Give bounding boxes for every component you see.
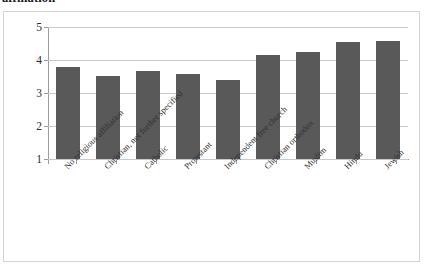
- y-axis-tick-mark: [44, 93, 48, 94]
- bar: [296, 52, 320, 159]
- y-axis-tick-label: 4: [36, 54, 42, 66]
- y-axis-tick-label: 1: [36, 153, 42, 165]
- y-axis-tick-mark: [44, 27, 48, 28]
- document-heading-fragment: affiliation: [2, 0, 302, 9]
- chart-plot-wrapper: 12345 No religious affiliationChristian,…: [4, 12, 421, 263]
- x-axis-labels: No religious affiliationChristian, not f…: [48, 164, 418, 260]
- bar: [56, 67, 80, 159]
- y-axis-tick-mark: [44, 126, 48, 127]
- gridline: [48, 27, 408, 28]
- chart-frame: 12345 No religious affiliationChristian,…: [3, 11, 420, 262]
- y-axis-tick-label: 3: [36, 87, 42, 99]
- screenshot-root: affiliation 12345 No religious affiliati…: [0, 0, 426, 276]
- bar: [376, 41, 400, 159]
- bar: [336, 42, 360, 159]
- bar: [256, 55, 280, 159]
- y-axis-tick-label: 5: [36, 21, 42, 33]
- y-axis-tick-label: 2: [36, 120, 42, 132]
- plot-area: 12345: [48, 27, 408, 159]
- bar: [216, 80, 240, 159]
- y-axis-tick-mark: [44, 60, 48, 61]
- bar: [176, 74, 200, 159]
